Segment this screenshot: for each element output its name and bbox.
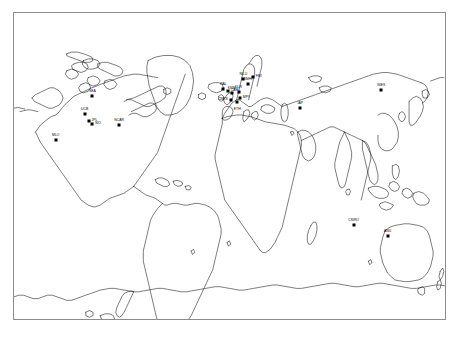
coastline-group: [14, 52, 445, 319]
world-coastline-map: [14, 13, 445, 319]
map-frame-border: SEAUCBJPLSIONCARMLORALCAMKNMIDLRMPICNRSN…: [13, 12, 446, 320]
world-map-figure: SEAUCBJPLSIONCARMLORALCAMKNMIDLRMPICNRSN…: [0, 0, 459, 337]
